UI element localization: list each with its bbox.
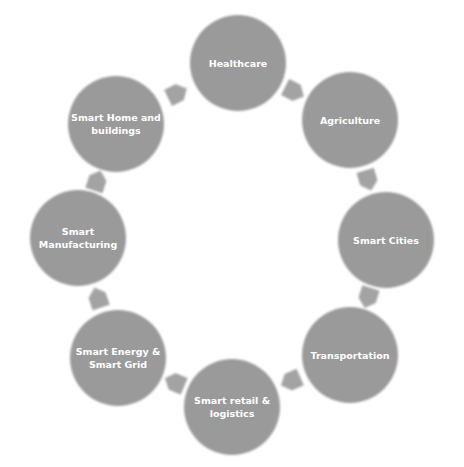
node-circle [70, 310, 166, 406]
node-transportation: Transportation [302, 307, 398, 403]
node-label: Smart Energy & [76, 346, 161, 357]
flow-arrow-icon [356, 285, 379, 310]
node-label: Smart [62, 226, 95, 237]
node-label: Manufacturing [39, 239, 117, 250]
node-smart-energy-grid: Smart Energy &Smart Grid [70, 310, 166, 406]
node-smart-retail-logistics: Smart retail &logistics [184, 359, 280, 455]
flow-arrow-icon [161, 370, 187, 395]
node-label: Transportation [310, 350, 389, 361]
node-label: Healthcare [209, 58, 268, 69]
flow-arrow-icon [85, 168, 109, 194]
node-label: Smart Home and [71, 112, 161, 123]
node-label: Smart retail & [194, 395, 270, 406]
node-circle [184, 359, 280, 455]
node-circle [30, 190, 126, 286]
node-smart-manufacturing: SmartManufacturing [30, 190, 126, 286]
flow-arrow-icon [86, 285, 110, 311]
cycle-diagram: HealthcareAgricultureSmart CitiesTranspo… [0, 0, 464, 467]
node-label: logistics [210, 408, 255, 419]
flow-arrow-icon [357, 168, 380, 193]
node-label: Agriculture [320, 115, 380, 126]
node-agriculture: Agriculture [302, 72, 398, 168]
nodes-layer: HealthcareAgricultureSmart CitiesTranspo… [30, 15, 434, 455]
node-label: Smart Cities [353, 235, 419, 246]
node-smart-cities: Smart Cities [338, 192, 434, 288]
node-healthcare: Healthcare [190, 15, 286, 111]
flow-arrow-icon [281, 79, 308, 105]
flow-arrow-icon [164, 81, 191, 106]
node-smart-home-buildings: Smart Home andbuildings [68, 76, 164, 172]
node-label: buildings [91, 125, 141, 136]
flow-arrow-icon [277, 369, 303, 394]
node-circle [68, 76, 164, 172]
node-label: Smart Grid [89, 359, 147, 370]
